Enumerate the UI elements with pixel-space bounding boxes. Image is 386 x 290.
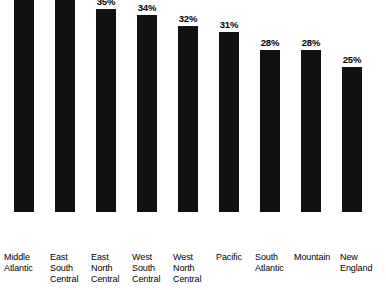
category-label-west-north-central: West North Central bbox=[173, 252, 217, 285]
category-label-line: North bbox=[173, 263, 217, 274]
bar[interactable] bbox=[301, 50, 321, 212]
bar-value-label: 25% bbox=[343, 55, 362, 65]
category-label-line: Central bbox=[50, 274, 94, 285]
category-label-east-south-central: East South Central bbox=[50, 252, 94, 285]
bar-value-label: 35% bbox=[97, 0, 116, 7]
category-label-line: Central bbox=[173, 274, 217, 285]
category-label-mountain: Mountain bbox=[294, 252, 346, 263]
plot-area: 40% 38% 35% 34% 32% 31% 28% 28% bbox=[0, 0, 386, 252]
category-label-line: New bbox=[340, 252, 384, 263]
category-label-pacific: Pacific bbox=[216, 252, 260, 263]
bar[interactable] bbox=[55, 0, 75, 212]
category-label-line: East bbox=[50, 252, 94, 263]
bar[interactable] bbox=[260, 50, 280, 212]
category-label-line: West bbox=[132, 252, 176, 263]
category-label-line: Mountain bbox=[294, 252, 346, 263]
category-label-line: Middle bbox=[4, 252, 48, 263]
bar-chart: 40% 38% 35% 34% 32% 31% 28% 28% bbox=[0, 0, 386, 290]
category-label-line: North bbox=[91, 263, 135, 274]
bar-value-label: 28% bbox=[302, 38, 321, 48]
category-label-new-england: New England bbox=[340, 252, 384, 274]
bar-value-label: 34% bbox=[138, 3, 157, 13]
bar[interactable] bbox=[342, 67, 362, 212]
bar[interactable] bbox=[219, 32, 239, 212]
bar-value-label: 28% bbox=[261, 38, 280, 48]
category-label-line: South bbox=[50, 263, 94, 274]
category-label-west-south-central: West South Central bbox=[132, 252, 176, 285]
category-label-line: Atlantic bbox=[4, 263, 48, 274]
category-label-east-north-central: East North Central bbox=[91, 252, 135, 285]
category-label-line: Central bbox=[91, 274, 135, 285]
category-label-line: Atlantic bbox=[255, 263, 299, 274]
category-label-line: Pacific bbox=[216, 252, 260, 263]
category-label-line: Central bbox=[132, 274, 176, 285]
category-label-line: East bbox=[91, 252, 135, 263]
bar-value-label: 31% bbox=[220, 20, 239, 30]
bar[interactable] bbox=[178, 26, 198, 212]
category-label-south-atlantic: South Atlantic bbox=[255, 252, 299, 274]
bar[interactable] bbox=[137, 15, 157, 212]
category-axis: Middle Atlantic East South Central East … bbox=[0, 252, 386, 290]
bar-value-label: 32% bbox=[179, 14, 198, 24]
category-label-middle-atlantic: Middle Atlantic bbox=[4, 252, 48, 274]
bar[interactable] bbox=[96, 9, 116, 212]
category-label-line: England bbox=[340, 263, 384, 274]
bar[interactable] bbox=[14, 0, 34, 212]
category-label-line: South bbox=[255, 252, 299, 263]
category-label-line: West bbox=[173, 252, 217, 263]
category-label-line: South bbox=[132, 263, 176, 274]
